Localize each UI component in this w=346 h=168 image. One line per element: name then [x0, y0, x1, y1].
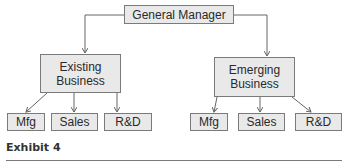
- emerging-rd-label: R&D: [306, 115, 331, 129]
- emerging-mfg-label: Mfg: [199, 115, 219, 129]
- emerging-sales-box: Sales: [238, 113, 285, 131]
- general-manager-label: General Manager: [132, 8, 225, 22]
- emerging-business-box: Emerging Business: [214, 57, 295, 97]
- existing-business-line2: Business: [56, 74, 105, 88]
- existing-business-line1: Existing: [59, 60, 101, 74]
- emerging-business-line2: Business: [230, 77, 279, 91]
- existing-mfg-box: Mfg: [7, 113, 45, 131]
- emerging-sales-label: Sales: [246, 115, 276, 129]
- caption-divider: [6, 160, 342, 161]
- existing-rd-box: R&D: [104, 113, 152, 131]
- exhibit-caption: Exhibit 4: [6, 141, 61, 154]
- emerging-mfg-box: Mfg: [190, 113, 228, 131]
- existing-sales-label: Sales: [59, 115, 89, 129]
- general-manager-box: General Manager: [124, 5, 234, 24]
- existing-rd-label: R&D: [115, 115, 140, 129]
- emerging-business-line1: Emerging: [229, 63, 280, 77]
- emerging-rd-box: R&D: [295, 113, 342, 131]
- existing-sales-box: Sales: [51, 113, 98, 131]
- existing-mfg-label: Mfg: [16, 115, 36, 129]
- existing-business-box: Existing Business: [40, 54, 121, 93]
